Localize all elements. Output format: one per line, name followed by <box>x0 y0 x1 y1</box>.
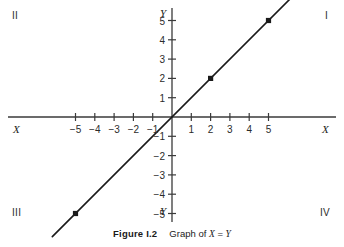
data-point-marker <box>266 18 271 23</box>
figure-caption: Figure I.2Graph of X = Y <box>0 228 344 239</box>
data-point-marker <box>208 76 213 81</box>
y-tick-label: −3 <box>154 169 165 180</box>
x-tick-label: −4 <box>89 124 100 135</box>
coordinate-plane-graph <box>0 0 344 247</box>
figure-container: II I III IV X X Y Y −5−4−3−2−11234554321… <box>0 0 344 247</box>
x-tick-label: −5 <box>70 124 81 135</box>
x-tick-label: −2 <box>128 124 139 135</box>
y-tick-label: −5 <box>154 208 165 219</box>
figure-caption-equals: = <box>215 228 226 239</box>
y-tick-label: 1 <box>159 92 165 103</box>
x-tick-label: 3 <box>227 124 233 135</box>
x-tick-label: 2 <box>208 124 214 135</box>
quadrant-label-i: I <box>325 10 328 21</box>
quadrant-label-ii: II <box>12 10 18 21</box>
y-tick-label: 4 <box>159 34 165 45</box>
y-tick-label: 2 <box>159 73 165 84</box>
x-tick-label: 5 <box>266 124 272 135</box>
y-tick-label: −2 <box>154 150 165 161</box>
quadrant-label-iii: III <box>12 207 21 218</box>
x-axis-label-left: X <box>13 123 20 135</box>
data-point-marker <box>73 211 78 216</box>
figure-caption-var-y: Y <box>226 229 231 239</box>
y-tick-label: −4 <box>154 189 165 200</box>
figure-caption-text: Graph of <box>169 228 209 239</box>
y-tick-label: 5 <box>159 15 165 26</box>
figure-number: Figure I.2 <box>113 228 157 239</box>
y-tick-label: −1 <box>154 131 165 142</box>
x-tick-label: 4 <box>246 124 252 135</box>
y-tick-label: 3 <box>159 54 165 65</box>
x-tick-label: −3 <box>108 124 119 135</box>
x-tick-label: 1 <box>189 124 195 135</box>
quadrant-label-iv: IV <box>320 207 330 218</box>
x-axis-label-right: X <box>322 123 329 135</box>
